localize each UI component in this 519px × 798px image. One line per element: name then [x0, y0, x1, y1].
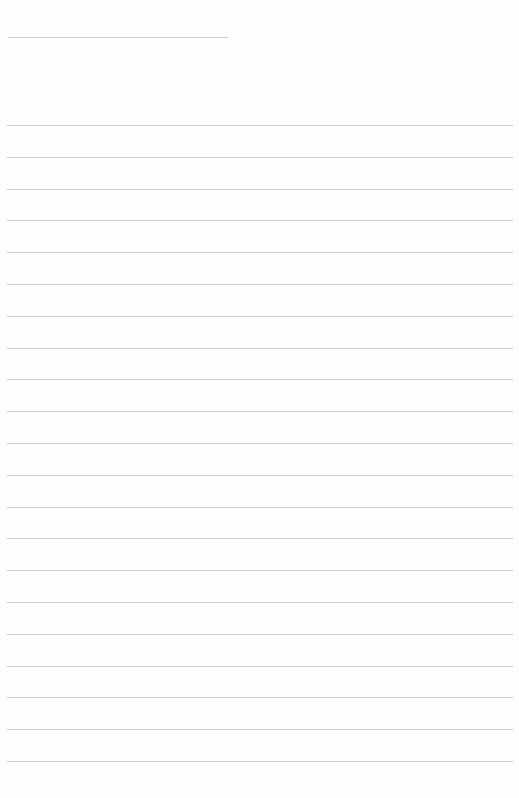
ruled-line [7, 602, 513, 603]
ruled-line [7, 316, 513, 317]
ruled-line [7, 697, 513, 698]
ruled-line [7, 220, 513, 221]
ruled-line [7, 379, 513, 380]
ruled-line [7, 729, 513, 730]
ruled-line [7, 538, 513, 539]
ruled-line [7, 666, 513, 667]
ruled-line [7, 570, 513, 571]
header-name-line [8, 37, 228, 38]
ruled-line [7, 252, 513, 253]
ruled-line [7, 634, 513, 635]
ruled-line [7, 475, 513, 476]
ruled-line [7, 761, 513, 762]
ruled-line [7, 411, 513, 412]
lined-paper-page [0, 0, 519, 798]
ruled-line [7, 189, 513, 190]
ruled-line [7, 507, 513, 508]
ruled-line [7, 157, 513, 158]
ruled-line [7, 443, 513, 444]
ruled-line [7, 284, 513, 285]
ruled-line [7, 125, 513, 126]
ruled-line [7, 348, 513, 349]
